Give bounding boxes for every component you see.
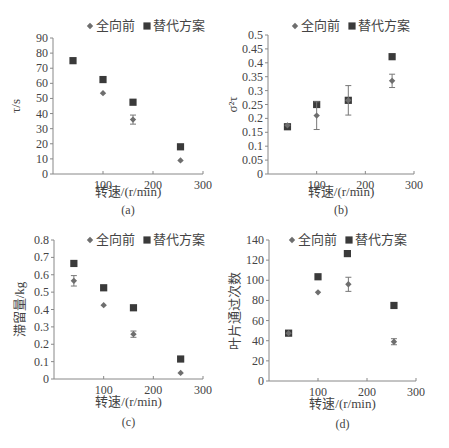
y-tick-label: 0.3: [248, 84, 263, 98]
y-tick-label: 140: [246, 233, 264, 247]
y-tick-label: 40: [36, 107, 48, 121]
y-tick-label: 0.6: [34, 268, 49, 282]
y-tick-label: 0: [258, 374, 264, 388]
chart-panel-a: 0102030405060708090100200300转速/(r/min)τ/…: [8, 18, 212, 217]
legend-label-series-b: 替代方案: [153, 18, 205, 33]
y-tick-label: 0.05: [242, 153, 263, 167]
data-point-square: [344, 250, 351, 257]
y-tick-label: 0: [42, 167, 48, 181]
y-tick-label: 0: [43, 372, 49, 386]
data-point-diamond: [315, 289, 321, 295]
y-axis-title: σ²τ: [225, 96, 240, 112]
chart-panel-d: 020406080100120140100200300转速/(r/min)叶片通…: [227, 232, 425, 431]
data-point-square: [129, 99, 136, 106]
legend-diamond-icon: [292, 23, 298, 29]
legend: 全向前替代方案: [87, 18, 205, 33]
x-tick-label: 300: [194, 383, 212, 397]
y-tick-label: 0.4: [248, 56, 263, 70]
y-tick-label: 40: [252, 334, 264, 348]
y-tick-label: 0.2: [34, 337, 49, 351]
panel-label: (b): [334, 203, 348, 217]
legend: 全向前替代方案: [289, 232, 407, 247]
panel-label: (a): [121, 203, 134, 217]
data-point-diamond: [177, 370, 183, 376]
y-tick-label: 70: [36, 61, 48, 75]
chart-panel-b: 00.050.10.150.20.250.30.350.40.450.51002…: [225, 18, 423, 217]
x-axis-title: 转速/(r/min): [308, 184, 374, 199]
legend-square-icon: [348, 22, 355, 29]
data-point-diamond: [100, 90, 106, 96]
y-tick-label: 80: [252, 293, 264, 307]
legend-label-series-b: 替代方案: [355, 232, 407, 247]
legend-diamond-icon: [87, 237, 93, 243]
data-point-square: [99, 76, 106, 83]
y-tick-label: 10: [36, 152, 48, 166]
y-tick-label: 0.15: [242, 125, 263, 139]
y-tick-label: 0.1: [34, 355, 49, 369]
y-tick-label: 0.45: [242, 42, 263, 56]
data-point-diamond: [177, 157, 183, 163]
legend: 全向前替代方案: [87, 232, 205, 247]
y-tick-label: 20: [252, 354, 264, 368]
legend-label-series-a: 全向前: [96, 18, 135, 33]
y-tick-label: 60: [252, 314, 264, 328]
legend-square-icon: [345, 236, 352, 243]
y-axis-title: τ/s: [8, 99, 23, 113]
y-tick-label: 0.7: [34, 250, 49, 264]
data-point-square: [100, 284, 107, 291]
legend-label-series-a: 全向前: [301, 18, 340, 33]
panel-label: (d): [336, 417, 350, 431]
chart-panel-c: 00.10.20.30.40.50.60.70.8100200300转速/(r/…: [12, 232, 212, 429]
legend: 全向前替代方案: [292, 18, 410, 33]
y-tick-label: 0.5: [34, 285, 49, 299]
y-axis-title: 叶片通过次数: [227, 272, 242, 350]
legend-label-series-b: 替代方案: [153, 232, 205, 247]
x-axis-title: 转速/(r/min): [309, 396, 375, 411]
data-point-square: [69, 57, 76, 64]
y-axis-title: 滞留量/kg: [12, 281, 27, 337]
data-point-square: [70, 260, 77, 267]
y-tick-label: 0.2: [248, 111, 263, 125]
data-point-diamond: [71, 278, 77, 284]
data-point-diamond: [100, 302, 106, 308]
legend-label-series-b: 替代方案: [358, 18, 410, 33]
legend-label-series-a: 全向前: [96, 232, 135, 247]
y-tick-label: 90: [36, 31, 48, 45]
x-tick-label: 300: [194, 178, 212, 192]
x-tick-label: 300: [407, 385, 425, 399]
y-tick-label: 20: [36, 137, 48, 151]
data-point-square: [177, 143, 184, 150]
legend-diamond-icon: [87, 23, 93, 29]
y-tick-label: 0.5: [248, 28, 263, 42]
y-tick-label: 50: [36, 91, 48, 105]
y-tick-label: 0.8: [34, 233, 49, 247]
y-tick-label: 80: [36, 46, 48, 60]
data-point-diamond: [345, 281, 351, 287]
data-point-square: [314, 273, 321, 280]
y-tick-label: 0.4: [34, 303, 49, 317]
legend-label-series-a: 全向前: [298, 232, 337, 247]
y-tick-label: 0.25: [242, 98, 263, 112]
data-point-diamond: [130, 116, 136, 122]
data-point-square: [130, 304, 137, 311]
x-tick-label: 300: [405, 178, 423, 192]
data-point-square: [389, 53, 396, 60]
data-point-square: [177, 355, 184, 362]
panel-label: (c): [122, 415, 135, 429]
legend-square-icon: [143, 22, 150, 29]
y-tick-label: 0.1: [248, 139, 263, 153]
y-tick-label: 60: [36, 76, 48, 90]
legend-diamond-icon: [289, 237, 295, 243]
figure-canvas: 0102030405060708090100200300转速/(r/min)τ/…: [0, 0, 449, 448]
data-point-diamond: [313, 112, 319, 118]
x-axis-title: 转速/(r/min): [95, 394, 161, 409]
y-tick-label: 0.3: [34, 320, 49, 334]
y-tick-label: 30: [36, 122, 48, 136]
y-tick-label: 0.35: [242, 70, 263, 84]
data-point-square: [390, 302, 397, 309]
data-point-diamond: [389, 78, 395, 84]
y-tick-label: 0: [257, 167, 263, 181]
y-tick-label: 120: [246, 253, 264, 267]
data-point-diamond: [391, 339, 397, 345]
x-axis-title: 转速/(r/min): [95, 184, 161, 199]
